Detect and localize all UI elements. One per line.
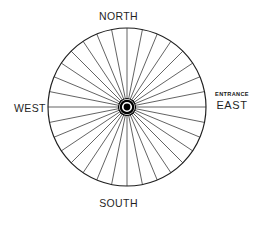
entrance-annotation: ENTRANCE [208, 92, 256, 98]
wheel-spoke [134, 92, 205, 106]
wheel-spoke [112, 30, 126, 101]
compass-label-south: SOUTH [0, 198, 257, 209]
wheel-spoke [50, 108, 121, 122]
compass-label-west: WEST [14, 103, 46, 114]
wheel-spoke [128, 114, 142, 185]
wheel-spoke [133, 111, 193, 151]
wheel-spoke [83, 113, 123, 173]
compass-label-east: EAST [208, 100, 256, 111]
wheel-diagram: NORTH SOUTH WEST ENTRANCE EAST [0, 0, 257, 226]
wheel-spoke [133, 63, 193, 103]
wheel-spoke [61, 111, 121, 151]
wheel-spoke [83, 41, 123, 101]
hub-center-dot [124, 104, 131, 111]
wheel-spoke [61, 63, 121, 103]
wheel-spoke [131, 41, 171, 101]
wheel-spoke [134, 108, 205, 122]
wheel-spoke [50, 92, 121, 106]
wheel-spoke [128, 30, 142, 101]
wheel-spoke [112, 114, 126, 185]
east-label-group: ENTRANCE EAST [208, 92, 256, 111]
wheel-spoke [131, 113, 171, 173]
compass-label-north: NORTH [0, 11, 257, 22]
